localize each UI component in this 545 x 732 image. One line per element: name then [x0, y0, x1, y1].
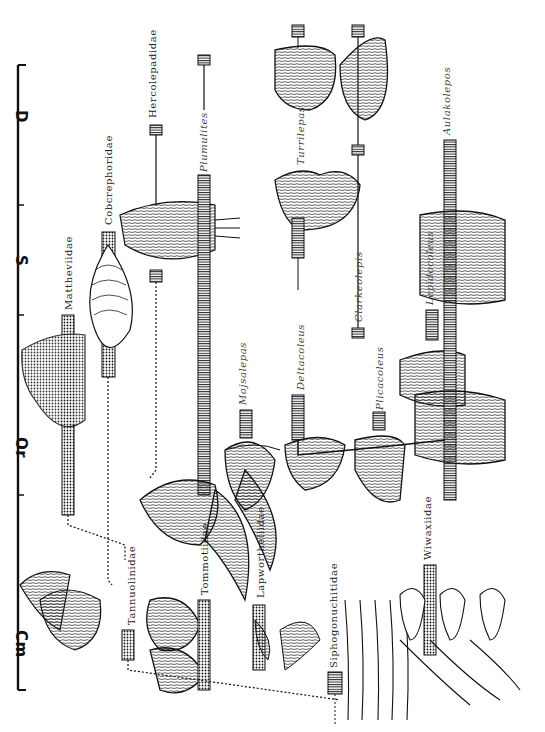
- genus-label-plumulites: Plumulites: [198, 112, 209, 172]
- genus-label-plicacoleus: Plicacoleus: [374, 346, 385, 410]
- family-label-tannuolinidae: Tannuolinidae: [126, 546, 137, 625]
- period-label-devonian: D: [12, 110, 30, 123]
- period-label-cambrian: Cm: [12, 630, 30, 658]
- genus-label-aulakolepos: Aulakolepos: [441, 67, 452, 135]
- plicacoleus-range: [355, 412, 405, 502]
- family-label-mattheviidae: Mattheviidae: [63, 236, 74, 310]
- family-label-siphogonuchitidae: Siphogonuchitidae: [328, 563, 339, 668]
- family-label-lapworthellidae: Lapworthellidae: [255, 506, 266, 598]
- genus-label-lepidocoleus: Lepidocoleus: [424, 231, 435, 305]
- cobcrephoridae-range: [90, 232, 133, 585]
- family-label-hercolepadidae: Hercolepadidae: [147, 29, 158, 118]
- turrilepas-range: [275, 25, 388, 290]
- genus-label-deltacoleus: Deltacoleus: [295, 324, 306, 390]
- family-label-cobcrephoridae: Cobcrephoridae: [103, 135, 114, 225]
- period-label-ordovician: Or: [12, 437, 30, 458]
- wiwaxiidae-range: [400, 565, 520, 705]
- genus-label-turrilepas: Turrilepas: [295, 107, 306, 165]
- family-label-tommotiidae: Tommotiidae: [199, 523, 210, 595]
- phylogeny-diagram: [0, 0, 545, 732]
- genus-label-clarkeolepis: Clarkeolepis: [353, 251, 364, 322]
- hercolepadidae-range: [120, 125, 240, 478]
- siphogonuchitidae-range: [328, 600, 408, 725]
- period-label-silurian: S: [12, 255, 30, 266]
- family-label-wiwaxiidae: Wiwaxiidae: [422, 496, 433, 560]
- tommotiidae-range: [140, 480, 249, 693]
- genus-label-mojsalepas: Mojsalepas: [237, 342, 248, 405]
- deltacoleus-range: [285, 395, 345, 490]
